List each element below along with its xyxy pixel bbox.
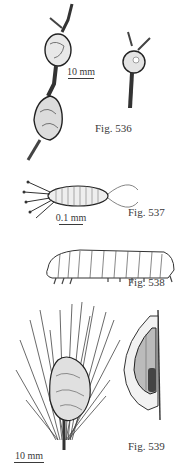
figure-label-537: Fig. 537 bbox=[128, 206, 165, 218]
pine-shoot-resin-gall-illustration bbox=[10, 300, 120, 450]
figure-538: Fig. 538 bbox=[0, 240, 178, 290]
illustration-plate: 10 mm Fig. 536 0.1 mm Fig. 537 bbox=[0, 0, 178, 474]
figure-label-536: Fig. 536 bbox=[95, 122, 132, 134]
scale-line bbox=[59, 224, 83, 225]
scale-line bbox=[14, 462, 44, 463]
scale-bar-536: 10 mm bbox=[66, 66, 96, 79]
figure-536: 10 mm Fig. 536 bbox=[0, 0, 178, 150]
scale-label: 0.1 mm bbox=[56, 212, 87, 223]
figure-label-538: Fig. 538 bbox=[128, 276, 165, 288]
gall-cross-section-illustration bbox=[116, 310, 166, 420]
twig-gall-illustration-left bbox=[10, 0, 90, 160]
scale-bar-537: 0.1 mm bbox=[54, 212, 88, 225]
scale-label: 10 mm bbox=[15, 450, 43, 461]
scale-bar-539: 10 mm bbox=[12, 450, 46, 463]
figure-537: 0.1 mm Fig. 537 bbox=[0, 160, 178, 230]
scale-line bbox=[68, 78, 94, 79]
figure-label-539: Fig. 539 bbox=[128, 440, 165, 452]
scale-label: 10 mm bbox=[67, 66, 95, 77]
figure-539: 10 mm Fig. 539 bbox=[0, 300, 178, 474]
twig-gall-illustration-right bbox=[118, 30, 158, 110]
